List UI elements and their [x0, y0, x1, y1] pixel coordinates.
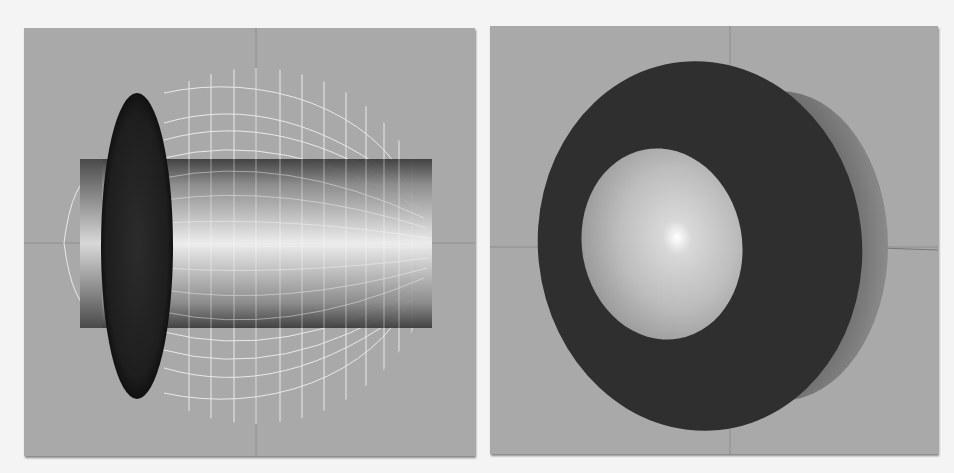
scene-side-view — [24, 28, 475, 456]
scene-perspective-view — [490, 26, 938, 454]
dark-disc-ellipsoid — [101, 93, 173, 399]
cylinder-left-cap — [80, 159, 102, 328]
viewport-perspective-view[interactable] — [490, 26, 938, 454]
viewport-side-view[interactable] — [24, 28, 475, 456]
